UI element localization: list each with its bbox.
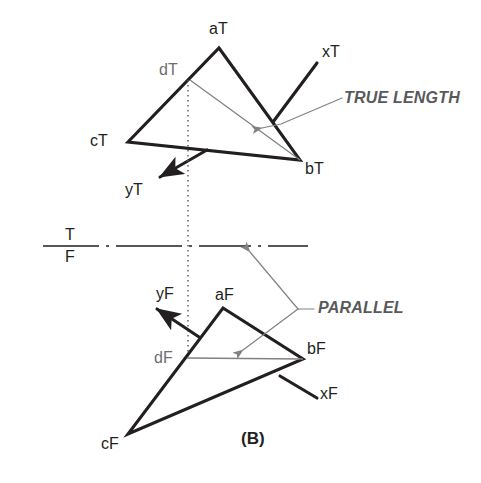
front-axis-x-line bbox=[280, 376, 317, 398]
label-bF: bF bbox=[307, 341, 326, 357]
front-view-group bbox=[128, 252, 317, 434]
label-aF: aF bbox=[215, 287, 234, 303]
fold-label-top: T bbox=[65, 227, 75, 243]
label-aT: aT bbox=[209, 21, 228, 37]
label-bT: bT bbox=[305, 161, 324, 177]
label-dT: dT bbox=[159, 62, 178, 78]
top-true-length-line-db bbox=[190, 80, 300, 160]
top-triangle-abc bbox=[128, 48, 300, 160]
parallel-leader-upper bbox=[250, 252, 298, 309]
label-xT: xT bbox=[322, 44, 340, 60]
fold-label-bottom: F bbox=[65, 249, 75, 265]
technical-drawing-figure: aT bT cT dT xT yT TRUE LENGTH T F aF bF … bbox=[0, 0, 481, 483]
top-axis-x-line bbox=[273, 63, 317, 122]
label-yF: yF bbox=[156, 286, 174, 302]
label-dF: dF bbox=[154, 350, 173, 366]
figure-caption: (B) bbox=[241, 430, 265, 447]
label-yT: yT bbox=[125, 182, 143, 198]
label-xF: xF bbox=[320, 386, 338, 402]
front-triangle-abc bbox=[128, 308, 303, 434]
top-axis-y-arrow bbox=[160, 150, 207, 177]
annotation-parallel: PARALLEL bbox=[318, 300, 404, 316]
parallel-leader-lower bbox=[243, 309, 298, 350]
label-cF: cF bbox=[101, 436, 119, 452]
front-line-db bbox=[187, 358, 303, 359]
front-axis-y-arrow bbox=[157, 309, 199, 337]
label-cT: cT bbox=[90, 133, 108, 149]
annotation-true-length: TRUE LENGTH bbox=[344, 90, 460, 106]
